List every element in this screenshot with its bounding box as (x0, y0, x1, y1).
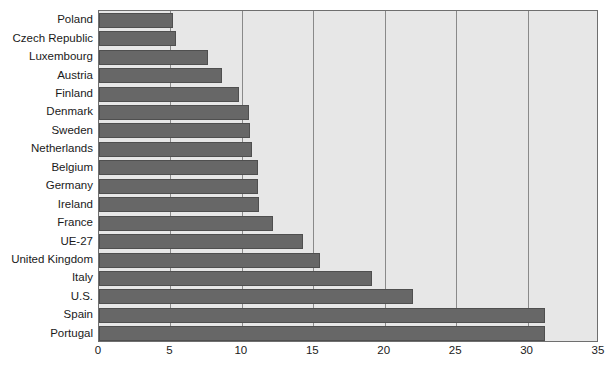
category-label: Luxembourg (0, 50, 93, 62)
category-label: Poland (0, 13, 93, 25)
x-tick-label: 10 (234, 344, 247, 357)
category-label: U.S. (0, 290, 93, 302)
x-tick-label: 30 (520, 344, 533, 357)
plot-area (98, 10, 598, 342)
x-tick-label: 0 (95, 344, 101, 357)
category-label: Ireland (0, 198, 93, 210)
category-label: Finland (0, 87, 93, 99)
category-label: United Kingdom (0, 253, 93, 265)
bar-chart: PolandCzech RepublicLuxembourgAustriaFin… (0, 0, 616, 379)
category-label: UE-27 (0, 235, 93, 247)
category-label: Czech Republic (0, 32, 93, 44)
bar (99, 234, 303, 249)
category-label: Germany (0, 179, 93, 191)
category-label: Belgium (0, 161, 93, 173)
gridline-30 (528, 11, 529, 341)
bar (99, 197, 259, 212)
bar (99, 13, 173, 28)
bar (99, 326, 545, 341)
gridline-25 (456, 11, 457, 341)
category-axis: PolandCzech RepublicLuxembourgAustriaFin… (0, 10, 93, 342)
bar (99, 87, 239, 102)
category-label: Sweden (0, 124, 93, 136)
category-label: France (0, 216, 93, 228)
category-label: Spain (0, 308, 93, 320)
x-tick-label: 20 (377, 344, 390, 357)
bar (99, 289, 413, 304)
bar (99, 68, 222, 83)
category-label: Netherlands (0, 142, 93, 154)
bar (99, 105, 249, 120)
x-tick-label: 35 (592, 344, 605, 357)
category-label: Denmark (0, 105, 93, 117)
bar (99, 308, 545, 323)
bar (99, 142, 252, 157)
category-label: Portugal (0, 327, 93, 339)
x-tick-label: 5 (166, 344, 172, 357)
bar (99, 31, 176, 46)
bar (99, 271, 372, 286)
bar (99, 216, 273, 231)
bar (99, 253, 320, 268)
bar (99, 179, 258, 194)
category-label: Italy (0, 271, 93, 283)
x-tick-label: 25 (449, 344, 462, 357)
value-axis: 05101520253035 (98, 344, 598, 364)
bar (99, 50, 208, 65)
bar (99, 123, 250, 138)
x-tick-label: 15 (306, 344, 319, 357)
category-label: Austria (0, 69, 93, 81)
bar (99, 160, 258, 175)
